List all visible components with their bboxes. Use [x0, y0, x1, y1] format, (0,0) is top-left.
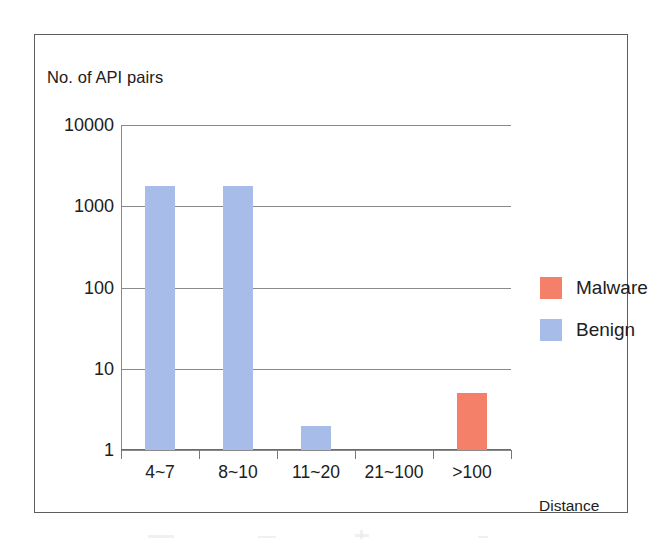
- y-axis-title: No. of API pairs: [47, 68, 163, 87]
- x-axis-tick: [277, 450, 278, 459]
- y-axis-tick-label: 1000: [74, 196, 114, 217]
- x-axis-tick-label: 21~100: [365, 462, 424, 483]
- x-axis-tick-label: 11~20: [292, 462, 340, 483]
- legend-item-malware: Malware: [540, 267, 648, 309]
- bar-benign: [301, 426, 331, 450]
- bar-benign: [223, 186, 253, 450]
- x-axis-tick-label: 4~7: [145, 462, 175, 483]
- figure-frame: No. of API pairs 100001000100101 4~78~10…: [34, 34, 628, 513]
- y-axis-tick-label: 10: [94, 358, 114, 379]
- legend-label: Benign: [576, 319, 635, 341]
- bar-slot: 11~20: [277, 125, 355, 450]
- bar-slot: >100: [433, 125, 511, 450]
- x-axis-title: Distance: [539, 497, 599, 515]
- x-axis-tick-label: >100: [452, 462, 491, 483]
- bar-slot: 4~7: [121, 125, 199, 450]
- scan-artifact: [478, 536, 488, 538]
- y-axis-tick-label: 100: [84, 277, 114, 298]
- scan-artifact: [148, 535, 174, 538]
- gridline: [121, 450, 511, 451]
- x-axis-tick: [355, 450, 356, 459]
- y-axis-tick-label: 10000: [64, 115, 114, 136]
- plot-area: 100001000100101 4~78~1011~2021~100>100: [121, 125, 511, 450]
- y-axis-tick-label: 1: [104, 440, 114, 461]
- bar-slot: 8~10: [199, 125, 277, 450]
- legend-label: Malware: [576, 277, 648, 299]
- scan-artifact: [258, 536, 276, 538]
- x-axis-tick: [199, 450, 200, 459]
- bar-benign: [145, 186, 175, 450]
- legend-swatch-icon: [540, 277, 562, 299]
- bar-slot: 21~100: [355, 125, 433, 450]
- scan-artifact: [360, 530, 363, 539]
- chart-legend: MalwareBenign: [540, 267, 648, 351]
- x-axis-tick: [511, 450, 512, 459]
- x-axis-tick-label: 8~10: [218, 462, 257, 483]
- legend-item-benign: Benign: [540, 309, 648, 351]
- x-axis-tick: [121, 450, 122, 459]
- legend-swatch-icon: [540, 319, 562, 341]
- x-axis-tick: [433, 450, 434, 459]
- bar-malware: [457, 393, 487, 450]
